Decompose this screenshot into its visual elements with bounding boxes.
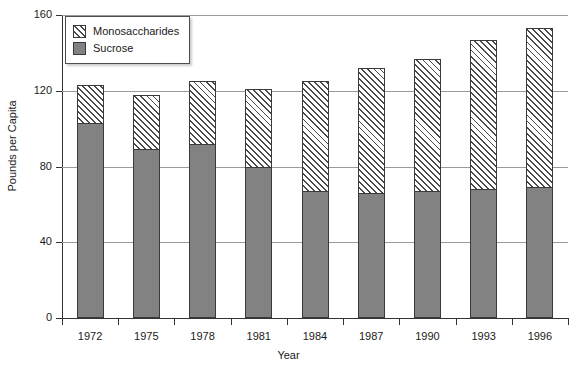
bar-1978 <box>189 81 216 318</box>
y-tick-label: 160 <box>0 9 52 20</box>
x-tick-mark <box>456 319 457 325</box>
bar-segment-sucrose <box>358 193 385 318</box>
bar-segment-sucrose <box>189 144 216 318</box>
legend-swatch-solid-icon <box>73 42 86 55</box>
bar-segment-sucrose <box>77 123 104 318</box>
y-tick-label: 40 <box>0 236 52 247</box>
bar-segment-monosaccharides <box>133 95 160 151</box>
bar-segment-monosaccharides <box>414 59 441 193</box>
legend-item-sucrose: Sucrose <box>73 40 179 57</box>
x-tick-label-1987: 1987 <box>341 330 401 342</box>
x-tick-mark <box>62 319 63 325</box>
x-tick-label-1981: 1981 <box>229 330 289 342</box>
bar-segment-sucrose <box>302 191 329 318</box>
bar-segment-sucrose <box>470 189 497 318</box>
x-tick-label-1975: 1975 <box>116 330 176 342</box>
bar-1984 <box>302 81 329 318</box>
x-tick-mark <box>399 319 400 325</box>
x-tick-label-1984: 1984 <box>285 330 345 342</box>
x-tick-label-1990: 1990 <box>397 330 457 342</box>
y-tick-label: 0 <box>0 312 52 323</box>
bar-1993 <box>470 40 497 318</box>
legend-swatch-hatch-icon <box>73 25 86 38</box>
bar-1990 <box>414 59 441 318</box>
bar-segment-monosaccharides <box>245 89 272 168</box>
x-tick-mark <box>287 319 288 325</box>
bar-1987 <box>358 68 385 318</box>
x-tick-mark <box>512 319 513 325</box>
bar-segment-sucrose <box>245 167 272 319</box>
legend-label-sucrose: Sucrose <box>93 43 133 54</box>
x-tick-label-1978: 1978 <box>173 330 233 342</box>
bar-segment-sucrose <box>526 187 553 318</box>
bar-segment-monosaccharides <box>77 85 104 124</box>
x-tick-mark <box>568 319 569 325</box>
bar-segment-monosaccharides <box>302 81 329 192</box>
legend-label-monosaccharides: Monosaccharides <box>93 26 179 37</box>
x-tick-label-1993: 1993 <box>454 330 514 342</box>
bar-1972 <box>77 85 104 318</box>
bar-segment-monosaccharides <box>189 81 216 144</box>
y-axis-title: Pounds per Capita <box>6 66 18 226</box>
x-tick-mark <box>174 319 175 325</box>
bar-1975 <box>133 95 160 318</box>
bar-segment-sucrose <box>414 191 441 318</box>
x-axis-title: Year <box>0 349 577 361</box>
x-tick-label-1972: 1972 <box>60 330 120 342</box>
stacked-bar-chart: 04080120160 1972197519781981198419871990… <box>0 0 577 366</box>
x-axis-line <box>62 318 569 319</box>
bar-segment-monosaccharides <box>470 40 497 191</box>
bar-1996 <box>526 28 553 318</box>
x-tick-mark <box>343 319 344 325</box>
bar-segment-sucrose <box>133 149 160 318</box>
bar-segment-monosaccharides <box>358 68 385 194</box>
x-tick-mark <box>118 319 119 325</box>
x-tick-mark <box>231 319 232 325</box>
legend-item-monosaccharides: Monosaccharides <box>73 23 179 40</box>
chart-legend: Monosaccharides Sucrose <box>65 16 190 64</box>
x-tick-label-1996: 1996 <box>510 330 570 342</box>
bar-segment-monosaccharides <box>526 28 553 188</box>
bar-1981 <box>245 89 272 318</box>
